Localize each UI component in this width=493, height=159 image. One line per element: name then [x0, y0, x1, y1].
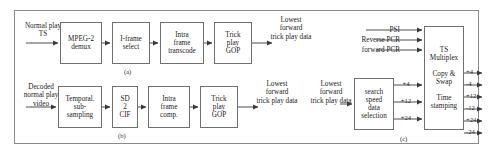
- section-c-input-label: Lowest forward trick play data: [300, 80, 362, 105]
- output-label-plus4: +4: [466, 68, 480, 76]
- section-a-output-label: Lowest forward trick play data: [258, 16, 324, 41]
- caption-b: (b): [118, 132, 126, 139]
- block-sd-2-cif: SD 2 CIF: [112, 86, 138, 128]
- output-label-minus24: -24: [466, 128, 482, 136]
- block-trick-play-gop-b-label: Trick play GOP: [211, 95, 226, 119]
- input-label-plus12: +12: [397, 97, 415, 105]
- block-temporal-sub-sampling: Temporal. sub- sampling: [58, 86, 102, 128]
- block-ts-multiplex: TS Multiplex Copy & Swap Time stamping: [424, 26, 464, 130]
- block-intra-frame-transcode: Intra frame transcode: [160, 22, 204, 64]
- caption-c: (c): [400, 135, 407, 142]
- block-ts-multiplex-title: TS Multiplex Copy & Swap Time stamping: [430, 46, 458, 111]
- block-temporal-sub-sampling-label: Temporal. sub- sampling: [65, 95, 94, 119]
- caption-a: (a): [124, 68, 131, 75]
- block-search-speed-data-selection: search speed data selection: [354, 78, 394, 130]
- output-label-plus24: +24: [466, 116, 482, 124]
- block-mpeg2-demux-label: MPEG-2 demux: [68, 35, 94, 51]
- block-i-frame-select: I-frame select: [112, 22, 150, 64]
- output-label-plus12: +12: [466, 92, 482, 100]
- block-mpeg2-demux: MPEG-2 demux: [60, 22, 102, 64]
- input-label-plus4: +4: [398, 80, 414, 88]
- block-diagram-figure: Normal play TS MPEG-2 demux I-frame sele…: [0, 0, 493, 159]
- input-label-psi: PSI: [340, 26, 400, 34]
- block-trick-play-gop-a: Trick play GOP: [214, 22, 252, 64]
- input-label-plus24: +24: [397, 114, 415, 122]
- block-intra-frame-comp-label: Intra frame comp.: [160, 95, 178, 119]
- input-label-forward-pcr: forward PCR: [340, 46, 400, 54]
- block-trick-play-gop-b: Trick play GOP: [200, 86, 238, 128]
- block-intra-frame-transcode-label: Intra frame transcode: [168, 31, 196, 55]
- block-trick-play-gop-a-label: Trick play GOP: [225, 31, 240, 55]
- input-label-reverse-pcr: Reverse PCR: [340, 36, 400, 44]
- block-intra-frame-comp: Intra frame comp.: [148, 86, 190, 128]
- output-label-minus4: -4: [466, 80, 480, 88]
- output-label-minus12: -12: [466, 104, 482, 112]
- block-sd-2-cif-label: SD 2 CIF: [119, 95, 130, 119]
- block-search-speed-data-selection-label: search speed data selection: [361, 88, 387, 120]
- block-i-frame-select-label: I-frame select: [120, 35, 142, 51]
